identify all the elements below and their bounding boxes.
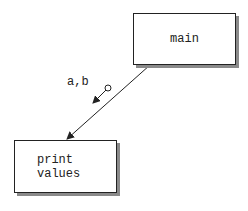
module-print-values: print values [14, 140, 117, 193]
module-print-label-line1: print [37, 153, 116, 167]
module-print-label-line2: values [37, 167, 116, 181]
data-couple-icon [93, 85, 111, 103]
module-main: main [133, 13, 236, 65]
structure-chart: main a,b print values [0, 0, 248, 211]
data-couple-label: a,b [67, 75, 89, 89]
module-main-label: main [170, 32, 199, 46]
